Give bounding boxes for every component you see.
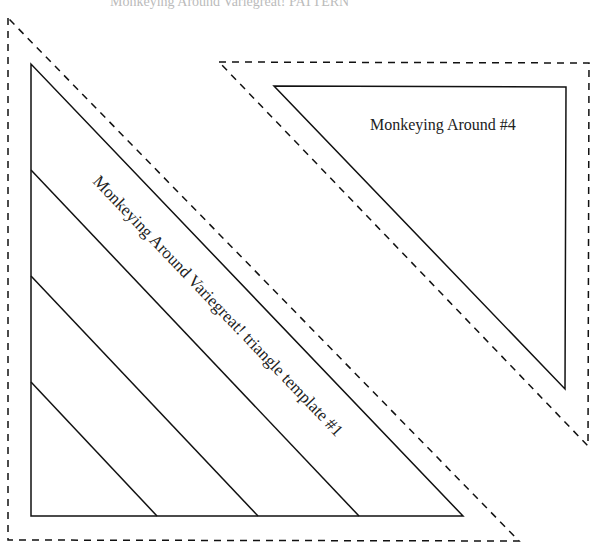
cutting-line-dashed xyxy=(8,18,519,541)
template-4-label: Monkeying Around #4 xyxy=(370,116,516,134)
triangle-template-4: Monkeying Around #4 xyxy=(219,62,589,446)
template-1-label: Monkeying Around Variegreat! triangle te… xyxy=(89,172,347,441)
triangle-template-1: Monkeying Around Variegreat! triangle te… xyxy=(8,18,519,541)
stripe-line-1 xyxy=(31,170,359,516)
stripe-line-3 xyxy=(31,382,157,516)
cropped-header-text: Monkeying Around Variegreat! PATTERN xyxy=(110,0,349,9)
template-sheet: Monkeying Around Variegreat! PATTERN Mon… xyxy=(0,0,599,554)
